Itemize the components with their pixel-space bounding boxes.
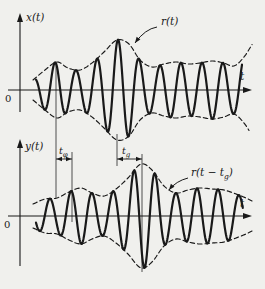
signal-curve (36, 40, 242, 137)
amplitude-axis-arrowhead (17, 13, 23, 22)
envelope-annotation-label: r(t) (161, 15, 178, 27)
figure-page: x(t)t0r(t)y(t)t0r(t − tg)tφtg (0, 0, 265, 289)
delay-span-arrowhead-right (136, 157, 142, 161)
delay-span-arrowhead-left (118, 157, 124, 161)
delay-span-arrowhead-left (57, 157, 63, 161)
y-axis-label: x(t) (26, 11, 44, 23)
time-axis-arrowhead (243, 87, 252, 93)
amplitude-axis-arrowhead (17, 139, 23, 148)
origin-label: 0 (4, 219, 10, 230)
y-axis-label: y(t) (24, 140, 43, 152)
time-axis-arrowhead (243, 213, 252, 219)
x-axis-label: t (240, 197, 245, 209)
envelope-annotation-label: r(t − tg) (191, 166, 233, 181)
x-axis-label: t (240, 70, 245, 82)
group-delay-label: tg (122, 145, 131, 159)
input-signal-plot: x(t)t0r(t) (5, 11, 252, 140)
group-delay-figure: x(t)t0r(t)y(t)t0r(t − tg)tφtg (0, 0, 265, 289)
origin-label: 0 (5, 93, 11, 104)
signal-curve (36, 170, 243, 267)
phase-delay-label: tφ (59, 145, 68, 159)
